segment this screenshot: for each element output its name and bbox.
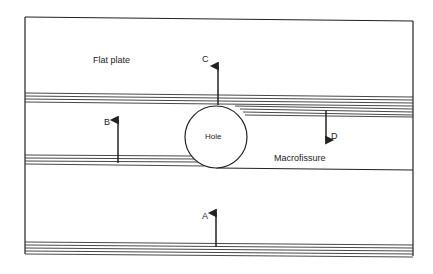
arrow-a-label: A	[202, 211, 208, 221]
arrow-b-label: B	[104, 117, 110, 127]
plate-label: Flat plate	[93, 55, 130, 65]
middle-layer-band	[25, 155, 204, 166]
hole-label: Hole	[205, 132, 221, 141]
macrofissure-line	[216, 168, 413, 170]
arrow-c-label: C	[202, 54, 209, 64]
bottom-layer-band	[25, 242, 413, 257]
arrow-d-label: D	[331, 131, 338, 141]
macrofissure-label: Macrofissure	[274, 153, 326, 163]
